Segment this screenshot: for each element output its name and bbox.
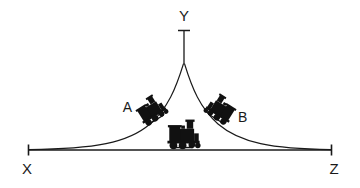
label-vehicle-b: B (238, 109, 247, 125)
label-left-end-x: X (22, 160, 32, 177)
apex-pole (178, 30, 190, 64)
locomotive-center (167, 120, 200, 150)
locomotive-b (202, 91, 239, 127)
locomotive-a (133, 92, 170, 128)
diagram-canvas: Y X Z A B (0, 0, 360, 188)
label-vehicle-a: A (123, 99, 133, 115)
label-right-end-z: Z (329, 160, 338, 177)
label-apex-y: Y (179, 7, 189, 24)
